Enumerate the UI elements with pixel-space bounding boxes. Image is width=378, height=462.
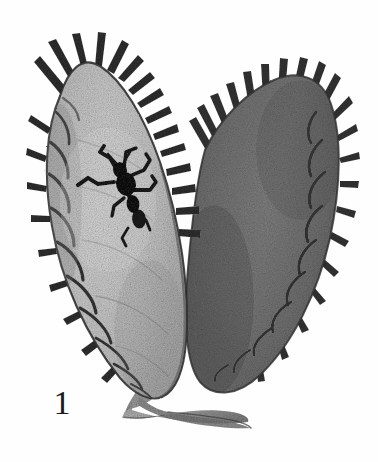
figure-number-label: 1 — [47, 383, 77, 423]
figure-illustration-panel: 1 — [0, 0, 378, 462]
